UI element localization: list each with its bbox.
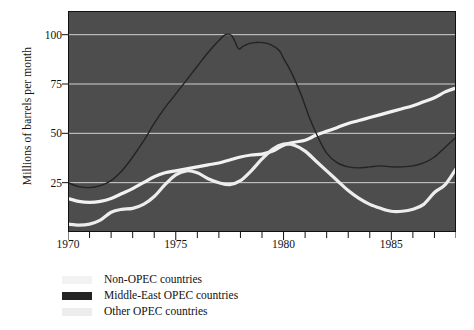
legend-label: Other OPEC countries <box>104 306 207 318</box>
y-axis-ticks <box>60 11 70 232</box>
x-tick-label: 1975 <box>164 238 187 250</box>
legend-item: Non-OPEC countries <box>62 272 392 287</box>
plot-background <box>68 11 456 232</box>
y-tick-label: 25 <box>28 177 62 189</box>
chart-canvas <box>68 11 456 232</box>
legend-item: Middle-East OPEC countries <box>62 288 392 303</box>
chart-legend: Non-OPEC countriesMiddle-East OPEC count… <box>62 272 392 320</box>
y-tick-label: 50 <box>28 127 62 139</box>
x-axis-tick-labels: 1970197519801985 <box>68 238 456 256</box>
chart-figure: Millions of barrels per month 255075100 … <box>0 0 474 330</box>
legend-swatch <box>62 308 92 316</box>
x-tick-label: 1980 <box>272 238 295 250</box>
y-tick-label: 75 <box>28 78 62 90</box>
legend-label: Non-OPEC countries <box>104 274 202 286</box>
legend-swatch <box>62 276 92 284</box>
legend-label: Middle-East OPEC countries <box>104 290 238 302</box>
x-tick-label: 1985 <box>380 238 403 250</box>
legend-item: Other OPEC countries <box>62 304 392 319</box>
plot-area <box>68 11 456 232</box>
y-tick-label: 100 <box>28 29 62 41</box>
legend-swatch <box>62 292 92 300</box>
x-tick-label: 1970 <box>57 238 80 250</box>
y-axis-tick-labels: 255075100 <box>22 11 62 232</box>
